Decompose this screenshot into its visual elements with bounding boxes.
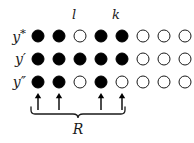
node-r0-c8: [179, 30, 192, 43]
node-r2-c4: [95, 76, 108, 89]
node-r1-c4: [95, 53, 108, 66]
node-r2-c2: [53, 76, 66, 89]
node-r0-c3: [74, 30, 87, 43]
node-r0-c2: [53, 30, 66, 43]
node-r0-c7: [158, 30, 171, 43]
node-r2-c1: [32, 76, 45, 89]
node-r1-c5: [116, 53, 129, 66]
node-r1-c6: [137, 53, 150, 66]
node-r2-c5: [116, 76, 129, 89]
column-label-k: k: [112, 8, 120, 21]
row-label-y-prime: y′: [15, 52, 26, 66]
figure-canvas: l k y* y′ y″: [0, 0, 194, 143]
node-r1-c7: [158, 53, 171, 66]
node-r0-c4: [95, 30, 108, 43]
node-r2-c6: [137, 76, 150, 89]
brace-label-R: R: [73, 122, 84, 136]
node-r2-c7: [158, 76, 171, 89]
node-r1-c1: [32, 53, 45, 66]
node-r0-c5: [116, 30, 129, 43]
node-r1-c3: [74, 53, 87, 66]
row-label-y-double-prime: y″: [13, 75, 26, 89]
underbrace-icon: [28, 106, 128, 122]
column-label-l: l: [72, 8, 76, 21]
node-r2-c3: [74, 76, 87, 89]
node-r2-c8: [179, 76, 192, 89]
node-r0-c1: [32, 30, 45, 43]
node-r1-c8: [179, 53, 192, 66]
node-r1-c2: [53, 53, 66, 66]
node-r0-c6: [137, 30, 150, 43]
row-label-y-star: y*: [12, 28, 26, 45]
